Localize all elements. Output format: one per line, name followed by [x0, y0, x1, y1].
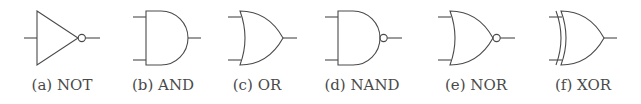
- and-gate-icon: [133, 11, 201, 65]
- caption-xor: (f) XOR: [555, 76, 611, 94]
- caption-nand: (d) NAND: [324, 76, 399, 94]
- caption-nor: (e) NOR: [445, 76, 507, 94]
- caption-or: (c) OR: [233, 76, 281, 94]
- logic-gates-figure: [0, 0, 641, 104]
- not-gate-icon: [24, 11, 100, 65]
- nor-gate-icon: [438, 11, 515, 65]
- xor-gate-icon: [549, 11, 617, 65]
- caption-and: (b) AND: [132, 76, 194, 94]
- or-gate-icon: [228, 11, 297, 65]
- caption-not: (a) NOT: [32, 76, 93, 94]
- nand-gate-icon: [325, 11, 402, 65]
